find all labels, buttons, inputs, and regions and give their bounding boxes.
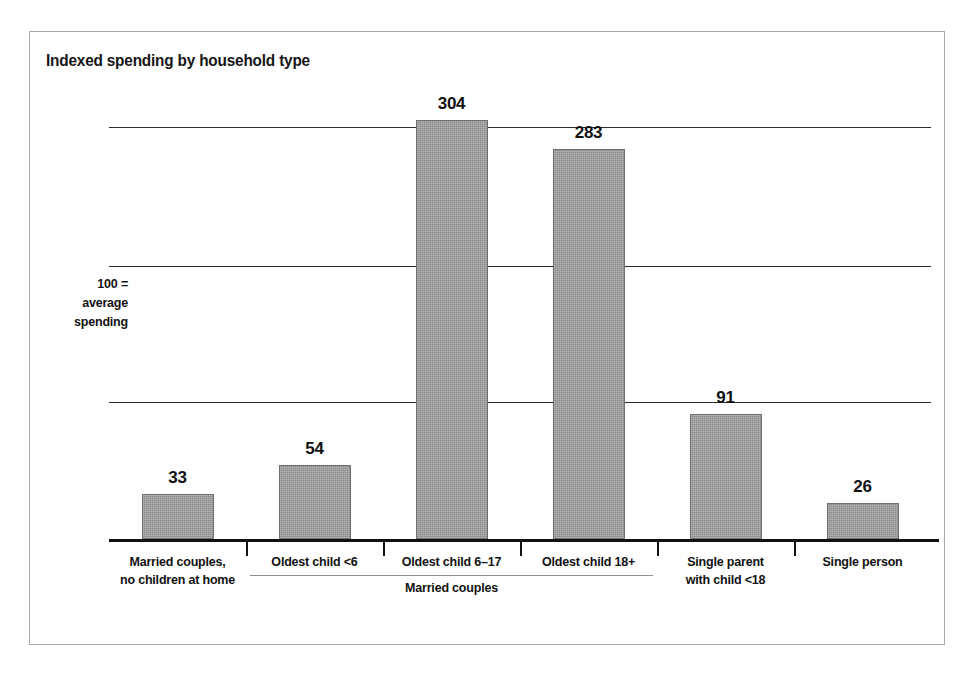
category-label-line: Single person xyxy=(794,553,931,571)
category-label-line: Married couples, xyxy=(109,553,246,571)
bar-1[interactable] xyxy=(142,494,214,539)
category-label-line: Oldest child 6–17 xyxy=(383,553,520,571)
category-label-4: Oldest child 18+ xyxy=(520,553,657,571)
bar-slot: 54 xyxy=(246,111,383,539)
bar-slot: 304 xyxy=(383,111,520,539)
bar-slot: 33 xyxy=(109,111,246,539)
category-label-6: Single person xyxy=(794,553,931,571)
y-axis-note-line-2: average xyxy=(60,294,128,313)
category-label-line: with child <18 xyxy=(657,571,794,589)
category-label-line: Oldest child 18+ xyxy=(520,553,657,571)
category-label-2: Oldest child <6 xyxy=(246,553,383,571)
category-label-5: Single parentwith child <18 xyxy=(657,553,794,589)
page-title: Indexed spending by household type xyxy=(46,51,310,70)
category-label-line: Oldest child <6 xyxy=(246,553,383,571)
bar-3[interactable] xyxy=(416,120,488,539)
category-label-3: Oldest child 6–17 xyxy=(383,553,520,571)
bar-slot: 283 xyxy=(520,111,657,539)
category-label-line: no children at home xyxy=(109,571,246,589)
group-bracket-line xyxy=(250,575,653,576)
category-label-1: Married couples,no children at home xyxy=(109,553,246,589)
bar-4[interactable] xyxy=(553,149,625,539)
bar-value-label: 283 xyxy=(575,123,602,143)
bar-slot: 26 xyxy=(794,111,931,539)
y-axis-note-line-3: spending xyxy=(60,313,128,332)
bar-slot: 91 xyxy=(657,111,794,539)
bar-5[interactable] xyxy=(690,414,762,539)
category-label-line: Single parent xyxy=(657,553,794,571)
bar-value-label: 304 xyxy=(438,94,465,114)
bar-2[interactable] xyxy=(279,465,351,539)
bars-layer: 33543042839126 xyxy=(109,111,931,539)
y-axis-note-line-1: 100 = xyxy=(60,275,128,294)
group-bracket-label: Married couples xyxy=(250,581,653,595)
y-axis-reference-note: 100 = average spending xyxy=(60,275,128,332)
page-canvas: Indexed spending by household type 33543… xyxy=(0,0,973,679)
axis-baseline xyxy=(109,539,939,542)
figure-frame: Indexed spending by household type 33543… xyxy=(29,31,945,645)
bar-6[interactable] xyxy=(827,503,899,539)
bar-value-label: 91 xyxy=(716,388,734,408)
bar-value-label: 26 xyxy=(853,477,871,497)
bar-value-label: 33 xyxy=(168,468,186,488)
bar-value-label: 54 xyxy=(305,439,323,459)
plot-area: 33543042839126 xyxy=(109,111,931,542)
